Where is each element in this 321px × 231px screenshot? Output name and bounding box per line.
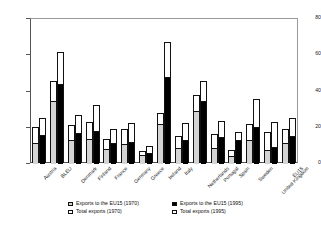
exports-eu15-1970-segment — [265, 150, 270, 164]
total-exports-1995-segment — [76, 116, 81, 133]
exports-eu15-1970-segment — [247, 140, 252, 164]
bar-1995 — [75, 115, 82, 163]
bar-group — [48, 52, 66, 163]
bar-1970 — [32, 127, 39, 163]
bar-group — [262, 122, 280, 163]
bar-1970 — [50, 81, 57, 163]
bar-1970 — [157, 113, 164, 163]
exports-eu15-1970-segment — [140, 155, 145, 164]
x-tick-label: Sweden — [258, 166, 275, 183]
exports-eu15-1970-segment — [87, 139, 92, 164]
total-exports-1970-segment — [122, 130, 127, 144]
bar-1970 — [228, 150, 235, 163]
bar-1970 — [264, 132, 271, 163]
bar-1970 — [175, 136, 182, 163]
bar-group — [280, 118, 298, 163]
bar-1970 — [282, 129, 289, 163]
exports-eu15-1970-segment — [229, 156, 234, 164]
total-exports-1970-segment — [33, 128, 38, 143]
bar-1970 — [246, 124, 253, 163]
bar-1995 — [253, 99, 260, 163]
bar-group — [30, 118, 48, 163]
total-exports-1970-segment — [104, 140, 109, 148]
total-exports-1995-segment — [165, 43, 170, 77]
y-tick-label: 20 — [307, 124, 321, 129]
x-tick-label: BLEU — [60, 166, 73, 179]
bar-chart: 020406080 AustriaBLEUDenmarkFinlandFranc… — [0, 0, 321, 231]
bar-group — [227, 132, 245, 163]
total-exports-1995-segment — [58, 53, 63, 84]
bar-1970 — [211, 134, 218, 163]
bar-1995 — [218, 121, 225, 163]
total-exports-1995-segment — [254, 100, 259, 127]
bar-1995 — [39, 118, 46, 163]
bar-1970 — [121, 129, 128, 163]
exports-eu15-1995-segment — [129, 142, 134, 164]
total-exports-1995-segment — [290, 119, 295, 136]
x-tick-label: Finland — [96, 166, 112, 182]
exports-eu15-1995-segment — [219, 137, 224, 164]
bar-group — [244, 99, 262, 163]
total-exports-1970-segment — [265, 133, 270, 150]
exports-eu15-1995-segment — [183, 140, 188, 164]
bar-1995 — [271, 122, 278, 163]
legend-item: Total exports (1970) — [68, 208, 172, 216]
exports-eu15-1995-segment — [165, 77, 170, 164]
exports-eu15-1970-segment — [104, 149, 109, 164]
exports-eu15-1995-segment — [94, 131, 99, 164]
legend-swatch-icon — [68, 202, 73, 206]
total-exports-1995-segment — [201, 82, 206, 100]
chart-legend: Exports to the EU15 (1970)Exports to the… — [68, 200, 298, 216]
bar-group — [209, 121, 227, 163]
legend-label: Exports to the EU15 (1970) — [76, 201, 139, 207]
exports-eu15-1970-segment — [194, 111, 199, 164]
legend-swatch-icon — [68, 210, 73, 214]
bar-group — [173, 123, 191, 163]
exports-eu15-1970-segment — [158, 124, 163, 164]
bar-1995 — [200, 81, 207, 163]
total-exports-1995-segment — [40, 119, 45, 135]
total-exports-1995-segment — [111, 130, 116, 144]
bar-group — [191, 81, 209, 163]
total-exports-1970-segment — [69, 126, 74, 140]
x-tick-label: Ireland — [168, 166, 183, 181]
total-exports-1970-segment — [194, 96, 199, 111]
legend-swatch-icon — [172, 210, 177, 214]
legend-item: Exports to the EU15 (1970) — [68, 200, 172, 208]
legend-item: Total exports (1995) — [172, 208, 282, 216]
y-tick-label: 80 — [307, 15, 321, 20]
total-exports-1970-segment — [87, 123, 92, 138]
legend-swatch-icon — [172, 202, 177, 206]
total-exports-1995-segment — [94, 106, 99, 131]
exports-eu15-1995-segment — [254, 127, 259, 164]
legend-item: Exports to the EU15 (1995) — [172, 200, 282, 208]
exports-eu15-1995-segment — [290, 136, 295, 164]
bar-group — [84, 105, 102, 163]
exports-eu15-1995-segment — [272, 147, 277, 164]
total-exports-1970-segment — [212, 135, 217, 148]
x-tick-label: Italy — [184, 166, 194, 176]
y-tick-mark — [26, 163, 30, 164]
bar-group — [66, 115, 84, 163]
exports-eu15-1970-segment — [283, 143, 288, 164]
legend-label: Total exports (1995) — [180, 209, 226, 215]
bar-1995 — [164, 42, 171, 163]
exports-eu15-1970-segment — [212, 148, 217, 164]
exports-eu15-1995-segment — [201, 101, 206, 164]
exports-eu15-1970-segment — [122, 144, 127, 164]
bar-1995 — [146, 146, 153, 163]
total-exports-1970-segment — [51, 82, 56, 100]
bar-1970 — [103, 139, 110, 163]
exports-eu15-1970-segment — [69, 140, 74, 164]
bar-1995 — [128, 123, 135, 163]
exports-eu15-1995-segment — [40, 135, 45, 164]
total-exports-1995-segment — [219, 122, 224, 137]
bar-1995 — [182, 123, 189, 163]
bar-1995 — [57, 52, 64, 163]
exports-eu15-1970-segment — [33, 143, 38, 164]
bar-1970 — [86, 122, 93, 163]
bar-group — [119, 123, 137, 163]
bar-1995 — [93, 105, 100, 163]
total-exports-1970-segment — [283, 130, 288, 143]
exports-eu15-1995-segment — [147, 153, 152, 164]
